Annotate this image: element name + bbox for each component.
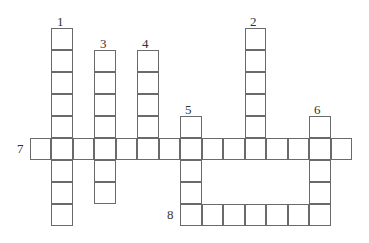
clue-number-1: 1: [57, 15, 64, 28]
crossword-cell[interactable]: [309, 116, 331, 138]
crossword-cell[interactable]: [137, 116, 159, 138]
crossword-cell[interactable]: [94, 94, 116, 116]
crossword-cell[interactable]: [51, 204, 73, 226]
crossword-cell[interactable]: [94, 72, 116, 94]
crossword-cell[interactable]: [309, 138, 331, 160]
crossword-cell[interactable]: [202, 204, 224, 226]
crossword-cell[interactable]: [94, 116, 116, 138]
crossword-cell[interactable]: [223, 204, 245, 226]
crossword-cell[interactable]: [51, 116, 73, 138]
crossword-cell[interactable]: [137, 72, 159, 94]
crossword-cell[interactable]: [73, 138, 95, 160]
clue-number-4: 4: [142, 37, 149, 50]
crossword-cell[interactable]: [309, 204, 331, 226]
crossword-cell[interactable]: [116, 138, 138, 160]
crossword-cell[interactable]: [51, 28, 73, 50]
clue-number-5: 5: [185, 103, 192, 116]
crossword-cell[interactable]: [137, 50, 159, 72]
crossword-cell[interactable]: [202, 138, 224, 160]
clue-number-8: 8: [167, 208, 174, 221]
crossword-cell[interactable]: [309, 160, 331, 182]
crossword-cell[interactable]: [180, 160, 202, 182]
crossword-cell[interactable]: [51, 182, 73, 204]
crossword-cell[interactable]: [245, 116, 267, 138]
crossword-cell[interactable]: [51, 94, 73, 116]
crossword-grid: 12345678: [0, 0, 369, 243]
crossword-cell[interactable]: [94, 50, 116, 72]
crossword-cell[interactable]: [94, 138, 116, 160]
crossword-cell[interactable]: [331, 138, 353, 160]
crossword-cell[interactable]: [245, 28, 267, 50]
crossword-cell[interactable]: [180, 116, 202, 138]
crossword-cell[interactable]: [288, 204, 310, 226]
crossword-cell[interactable]: [245, 138, 267, 160]
crossword-cell[interactable]: [180, 138, 202, 160]
clue-number-3: 3: [100, 37, 107, 50]
crossword-cell[interactable]: [245, 94, 267, 116]
crossword-cell[interactable]: [180, 204, 202, 226]
crossword-cell[interactable]: [245, 50, 267, 72]
crossword-cell[interactable]: [51, 160, 73, 182]
crossword-cell[interactable]: [180, 182, 202, 204]
clue-number-2: 2: [250, 15, 257, 28]
crossword-cell[interactable]: [245, 72, 267, 94]
clue-number-7: 7: [17, 142, 24, 155]
crossword-cell[interactable]: [51, 50, 73, 72]
crossword-cell[interactable]: [94, 182, 116, 204]
crossword-cell[interactable]: [159, 138, 181, 160]
crossword-cell[interactable]: [137, 94, 159, 116]
crossword-cell[interactable]: [266, 204, 288, 226]
crossword-cell[interactable]: [288, 138, 310, 160]
crossword-cell[interactable]: [30, 138, 52, 160]
crossword-cell[interactable]: [245, 204, 267, 226]
crossword-cell[interactable]: [309, 182, 331, 204]
clue-number-6: 6: [314, 103, 321, 116]
crossword-cell[interactable]: [94, 160, 116, 182]
crossword-cell[interactable]: [223, 138, 245, 160]
crossword-cell[interactable]: [51, 72, 73, 94]
crossword-cell[interactable]: [266, 138, 288, 160]
crossword-cell[interactable]: [51, 138, 73, 160]
crossword-cell[interactable]: [137, 138, 159, 160]
